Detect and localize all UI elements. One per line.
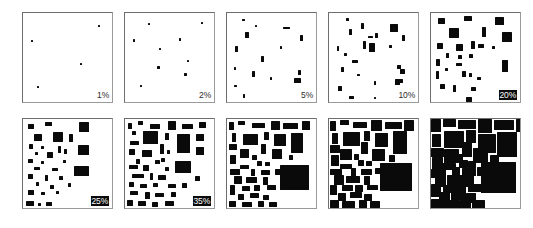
density-block [436,71,439,78]
density-block [445,68,448,71]
density-block [369,43,375,51]
density-block [436,59,440,66]
density-block [140,85,142,87]
density-block [53,132,64,142]
density-block [45,122,52,126]
density-block [184,73,187,76]
density-block [28,124,33,129]
density-block [472,200,485,208]
density-block [165,133,169,140]
density-block [468,184,482,192]
density-block [340,120,349,125]
density-block [449,28,459,38]
density-block [494,120,514,130]
density-block [34,134,41,141]
panel-plot-area [23,13,112,102]
density-block [129,182,134,187]
density-block [179,38,181,41]
density-block [456,63,463,66]
density-block [229,201,236,207]
density-block [263,195,268,200]
density-block [235,46,238,51]
density-block [168,184,176,188]
density-block [375,33,378,38]
density-block [431,148,444,157]
density-block [352,60,358,63]
density-block [150,173,154,180]
density-block [331,155,339,166]
density-block [258,201,264,207]
density-block [165,201,174,206]
density-block [437,43,443,49]
density-block [45,175,49,180]
density-block [133,39,135,41]
density-block [280,165,309,190]
density-block [196,134,204,140]
density-block [132,131,136,135]
density-block [462,142,472,157]
density-block [130,191,137,196]
density-block [261,56,264,62]
density-block [385,122,401,129]
density-block [302,121,310,130]
density-block [466,130,475,143]
density-block [267,185,276,190]
coverage-label: 50% [399,196,415,206]
density-block [177,134,190,153]
density-block [165,167,169,171]
coverage-label: 5% [301,90,313,100]
density-block [175,161,190,173]
density-block [252,155,257,160]
density-block [364,131,370,141]
density-panel-2pct: 2% [124,12,215,103]
density-block [497,132,516,157]
density-block [242,186,250,191]
coverage-label: 20% [499,90,517,100]
density-block [232,133,237,142]
density-block [280,46,282,48]
density-block [359,200,367,208]
panel-plot-area [431,119,520,208]
density-block [69,134,73,141]
density-block [443,200,460,208]
density-block [28,159,32,163]
density-block [431,199,443,208]
density-block [35,152,38,155]
density-block [128,123,133,129]
density-block [243,94,245,99]
density-block [68,183,71,188]
density-block [462,71,466,77]
density-block [150,124,161,129]
density-block [41,146,44,149]
density-block [440,84,445,89]
density-block [261,144,266,155]
density-panel-10pct: 10% [328,12,419,103]
density-block [453,85,457,92]
density-block [393,131,408,154]
density-block [37,86,39,88]
density-block [74,166,89,176]
density-block [358,160,364,166]
density-block [50,185,54,189]
density-block [46,202,52,207]
density-block [182,124,193,129]
density-block [471,41,475,49]
density-block [138,121,143,126]
density-block [263,177,268,184]
density-block [444,131,464,148]
density-block [168,121,176,130]
density-block [361,169,372,174]
panel-plot-area [125,119,214,208]
density-block [353,122,368,128]
density-block [142,150,152,157]
density-block [230,155,236,164]
density-block [250,193,259,198]
density-block [380,163,412,191]
density-block [390,24,397,31]
density-block [338,86,343,91]
density-block [458,55,462,59]
density-block [341,67,344,72]
density-block [343,132,360,147]
density-panel-50pct: 50% [328,118,419,209]
density-panel-1pct: 1% [22,12,113,103]
